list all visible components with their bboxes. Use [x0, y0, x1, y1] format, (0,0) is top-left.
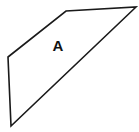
- geometry-figure: A: [0, 0, 139, 132]
- shape-label-a: A: [53, 37, 64, 54]
- quadrilateral-shape: [8, 7, 136, 126]
- shape-svg: A: [0, 0, 139, 132]
